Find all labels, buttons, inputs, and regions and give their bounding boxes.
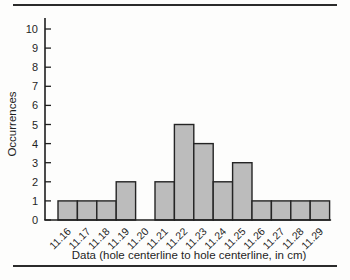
x-axis-title: Data (hole centerline to hole centerline… <box>72 249 307 261</box>
top-rule <box>13 4 337 6</box>
histogram-bar-11.26 <box>252 201 271 220</box>
histogram-bar-11.29 <box>310 201 329 220</box>
histogram-bar-11.16 <box>58 201 77 220</box>
y-tick-label: 0 <box>32 214 38 226</box>
y-tick-label: 10 <box>26 23 38 35</box>
histogram-bar-11.18 <box>97 201 116 220</box>
y-tick-label: 3 <box>32 157 38 169</box>
histogram-bar-11.17 <box>77 201 96 220</box>
y-tick-label: 4 <box>32 138 38 150</box>
y-tick-label: 7 <box>32 80 38 92</box>
histogram-bar-11.22 <box>174 125 193 221</box>
y-tick-label: 5 <box>32 119 38 131</box>
histogram-bar-11.21 <box>155 182 174 220</box>
histogram-canvas: 01234567891011.1611.1711.1811.1911.2011.… <box>0 0 350 280</box>
histogram-figure: 01234567891011.1611.1711.1811.1911.2011.… <box>0 0 350 280</box>
y-tick-label: 2 <box>32 176 38 188</box>
histogram-bar-11.28 <box>291 201 310 220</box>
y-tick-label: 6 <box>32 99 38 111</box>
bottom-rule <box>13 265 337 267</box>
histogram-bar-11.24 <box>213 182 232 220</box>
y-tick-label: 9 <box>32 42 38 54</box>
y-axis-title: Occurrences <box>6 91 18 156</box>
y-tick-label: 8 <box>32 61 38 73</box>
histogram-bar-11.27 <box>271 201 290 220</box>
plot-area: 01234567891011.1611.1711.1811.1911.2011.… <box>26 18 331 251</box>
histogram-bar-11.19 <box>116 182 135 220</box>
histogram-bar-11.25 <box>233 163 252 220</box>
x-tick-label: 11.29 <box>299 225 326 252</box>
histogram-bar-11.23 <box>194 144 213 220</box>
y-tick-label: 1 <box>32 195 38 207</box>
